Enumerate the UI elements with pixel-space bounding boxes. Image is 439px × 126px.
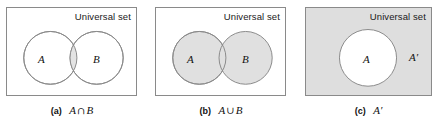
set-label-a: A bbox=[38, 54, 45, 65]
caption-union: (b) A∪B bbox=[149, 104, 293, 116]
set-label-b: B bbox=[93, 54, 100, 65]
universal-set-box-a: Universal set A B bbox=[6, 7, 137, 96]
set-label-a-complement: A′ bbox=[409, 52, 418, 63]
set-label-a: A bbox=[363, 54, 370, 65]
caption-expression-c: A′ bbox=[373, 104, 382, 116]
panel-union: Universal set A B (b) A∪B bbox=[149, 0, 293, 126]
caption-intersection: (a) A∩B bbox=[0, 104, 144, 116]
expr-operator-b: ∪ bbox=[225, 105, 235, 116]
caption-tag-b: (b) bbox=[200, 106, 212, 116]
universal-set-label: Universal set bbox=[370, 11, 426, 22]
expr-right-b: B bbox=[236, 104, 243, 116]
universal-set-label: Universal set bbox=[224, 11, 280, 22]
panel-intersection: Universal set A B (a) A∩B bbox=[0, 0, 144, 126]
expr-right-a: B bbox=[86, 104, 93, 116]
panel-complement: Universal set A A′ (c) A′ bbox=[298, 0, 439, 126]
caption-tag-c: (c) bbox=[355, 106, 366, 116]
caption-expression-b: A∪B bbox=[219, 104, 243, 116]
expr-left-c: A′ bbox=[373, 104, 382, 116]
set-label-a: A bbox=[187, 54, 194, 65]
universal-set-box-c: Universal set A A′ bbox=[305, 7, 432, 96]
caption-tag-a: (a) bbox=[51, 106, 62, 116]
caption-expression-a: A∩B bbox=[69, 104, 93, 116]
venn-diagram-figure: Universal set A B (a) A∩B Universal set … bbox=[0, 0, 439, 126]
caption-complement: (c) A′ bbox=[298, 104, 439, 116]
universal-set-label: Universal set bbox=[75, 11, 131, 22]
expr-operator-a: ∩ bbox=[76, 105, 86, 116]
universal-set-box-b: Universal set A B bbox=[155, 7, 286, 96]
set-label-b: B bbox=[242, 54, 249, 65]
